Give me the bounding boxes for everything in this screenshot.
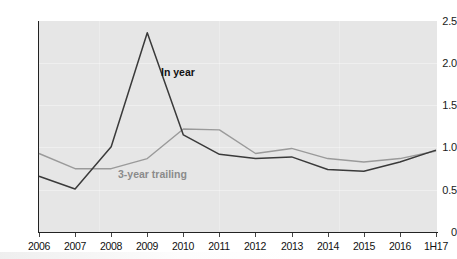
line-chart: 2.5 2.0 1.5 1.0 0.5 0 2006 2007 2008 200… bbox=[0, 0, 457, 259]
series-annotation-3-year-trailing: 3-year trailing bbox=[118, 168, 187, 180]
series-annotation-in-year: In year bbox=[161, 66, 195, 78]
series-line-in-year bbox=[39, 33, 436, 189]
scan-artifact bbox=[0, 252, 300, 259]
series-layer bbox=[0, 0, 457, 259]
series-line-3-year-trailing bbox=[39, 129, 436, 169]
